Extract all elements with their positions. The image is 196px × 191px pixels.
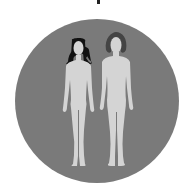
illustration [0,0,196,191]
background-circle [15,19,179,183]
woman-head [74,41,84,55]
top-mark [97,0,100,4]
figures-illustration [0,0,196,191]
man-head [111,37,122,53]
